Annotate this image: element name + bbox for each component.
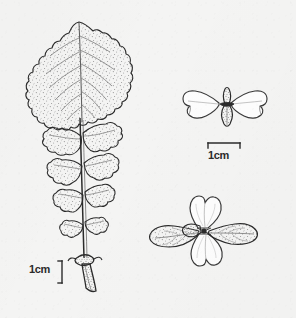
scalebar-right — [208, 143, 240, 148]
leaf-petiole — [82, 264, 96, 291]
figure-leaf — [26, 22, 133, 291]
leaf-terminal-lobe — [26, 22, 133, 130]
leaf-lateral-lobe-right-4 — [85, 217, 108, 234]
flower-face-petal-top — [190, 196, 221, 228]
leaf-lateral-lobe-left-1 — [43, 128, 82, 156]
illustration-plate: 1cm 1cm — [0, 0, 296, 318]
leaf-lateral-lobe-left-2 — [47, 159, 82, 186]
leaf-lateral-lobe-right-2 — [84, 154, 119, 181]
scalebar-left-label: 1cm — [29, 264, 50, 275]
leaf-lateral-lobe-left-4 — [60, 220, 83, 237]
flower-side-receptacle — [220, 103, 234, 107]
leaf-lateral-lobe-right-3 — [85, 184, 115, 207]
scalebar-right-label: 1cm — [208, 150, 229, 161]
flower-side-petal-left — [183, 91, 219, 118]
figure-flower-face — [150, 196, 258, 266]
scalebar-left — [58, 261, 62, 283]
figure-flower-side — [183, 88, 267, 127]
leaf-lateral-lobe-left-3 — [53, 189, 83, 212]
leaf-lateral-lobe-right-1 — [83, 123, 122, 152]
flower-face-bud — [183, 224, 201, 237]
flower-side-petal-right — [231, 91, 267, 118]
